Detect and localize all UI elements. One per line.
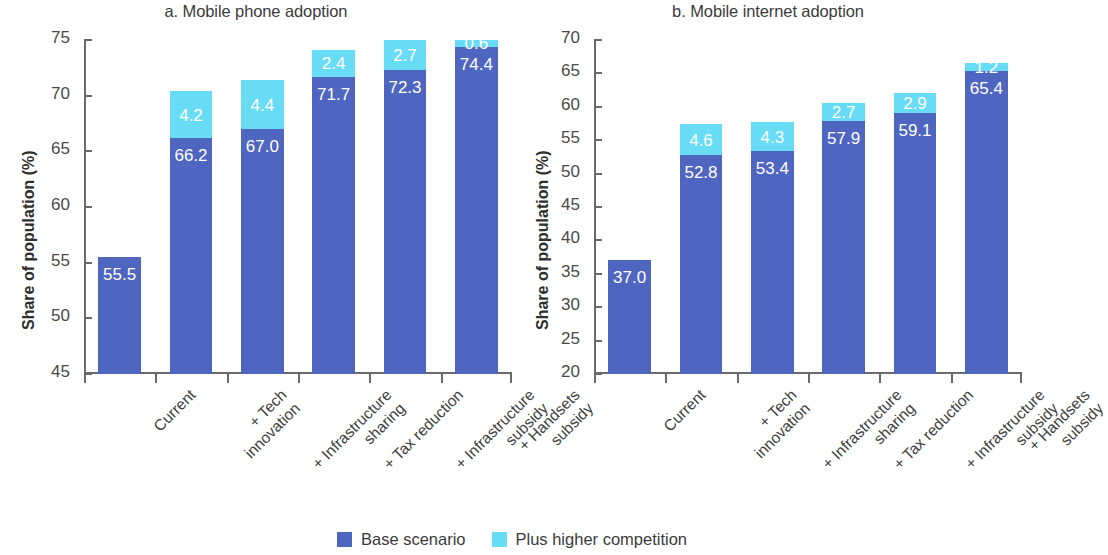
bar-value-label-base: 71.7 xyxy=(312,85,355,105)
bar-stack: 66.24.2 xyxy=(170,91,213,374)
y-axis-tick-mark xyxy=(594,340,602,342)
y-axis-tick-mark xyxy=(84,150,92,152)
bar-value-label-plus: 4.4 xyxy=(241,96,284,116)
bar-value-label-plus: 2.7 xyxy=(822,103,865,123)
bar-value-label-base: 66.2 xyxy=(170,146,213,166)
bar-value-label-plus: 0.6 xyxy=(455,34,498,54)
bar-value-label-base: 57.9 xyxy=(822,129,865,149)
legend-swatch-base xyxy=(337,532,352,547)
legend-item: Base scenario xyxy=(337,530,466,549)
bar-stack: 52.84.6 xyxy=(680,124,723,374)
y-axis-tick-label: 60 xyxy=(561,95,580,115)
y-axis-tick-mark xyxy=(84,39,92,41)
x-axis-category-label: + Infrastructuresubsidy xyxy=(961,386,1062,487)
y-axis-tick-label: 65 xyxy=(51,139,70,159)
bar-segment-base-scenario xyxy=(241,129,284,374)
x-axis-label-line1: + Handsets xyxy=(1025,386,1093,454)
bar-value-label-plus: 4.3 xyxy=(751,128,794,148)
legend-label: Plus higher competition xyxy=(516,530,688,549)
bar-value-label-plus: 4.2 xyxy=(170,106,213,126)
bar-value-label-base: 72.3 xyxy=(384,78,427,98)
x-axis-category-label: + Techinnovation xyxy=(227,386,304,463)
x-axis-category-label: + Techinnovation xyxy=(737,386,814,463)
bar-value-label-base: 74.4 xyxy=(455,55,498,75)
bar-value-label-base: 52.8 xyxy=(680,163,723,183)
y-axis-tick-mark xyxy=(594,273,602,275)
panel-mobile-internet-adoption: b. Mobile internet adoption Share of pop… xyxy=(512,0,1024,515)
bar-stack: 67.04.4 xyxy=(241,80,284,374)
x-axis-tick-mark xyxy=(84,374,86,383)
x-axis-label-line2: subsidy xyxy=(1038,399,1107,468)
bar-segment-base-scenario xyxy=(384,70,427,374)
x-axis-tick-mark xyxy=(155,374,157,383)
y-axis-tick-label: 40 xyxy=(561,228,580,248)
x-axis-category-label: Current xyxy=(150,386,200,436)
legend-swatch-plus xyxy=(492,532,507,547)
y-axis-tick-mark xyxy=(594,173,602,175)
bar-segment-base-scenario xyxy=(455,47,498,374)
x-axis-label-line2: innovation xyxy=(241,399,304,462)
bar-value-label-base: 59.1 xyxy=(894,121,937,141)
x-axis-label-line1: + Infrastructure xyxy=(309,386,395,472)
y-axis-tick-mark xyxy=(594,72,602,74)
y-axis-tick-label: 50 xyxy=(561,162,580,182)
bar-value-label-plus: 2.4 xyxy=(312,54,355,74)
x-axis-label-line1: + Tech xyxy=(245,386,289,430)
x-axis-category-label: + Tax reduction xyxy=(380,386,468,474)
y-axis-tick-mark xyxy=(594,106,602,108)
x-axis-tick-mark xyxy=(737,374,739,383)
panel-b-plot-area: 202530354045505560657037.052.84.653.44.3… xyxy=(594,40,1022,374)
y-axis-tick-mark xyxy=(594,206,602,208)
bar-stack: 53.44.3 xyxy=(751,122,794,374)
y-axis-tick-label: 45 xyxy=(561,195,580,215)
bar-stack: 57.92.7 xyxy=(822,103,865,374)
panel-a-plot-area: 4550556065707555.566.24.267.04.471.72.47… xyxy=(84,40,512,374)
x-axis-tick-mark xyxy=(1020,374,1022,383)
y-axis-tick-label: 65 xyxy=(561,61,580,81)
y-axis-tick-mark xyxy=(594,306,602,308)
bar-segment-base-scenario xyxy=(170,138,213,374)
bar-stack: 37.0 xyxy=(608,260,651,374)
y-axis-tick-mark xyxy=(84,206,92,208)
y-axis-tick-mark xyxy=(84,262,92,264)
bar-value-label-plus: 2.7 xyxy=(384,46,427,66)
bar-segment-base-scenario xyxy=(751,151,794,374)
bar-value-label-plus: 4.6 xyxy=(680,131,723,151)
y-axis-tick-label: 70 xyxy=(51,84,70,104)
x-axis-label-line1: + Tax reduction xyxy=(380,386,466,472)
bar-stack: 65.41.2 xyxy=(965,63,1008,374)
bar-segment-base-scenario xyxy=(894,113,937,374)
panel-a-y-axis-label: Share of population (%) xyxy=(20,150,38,330)
y-axis-tick-label: 55 xyxy=(561,128,580,148)
y-axis-tick-mark xyxy=(84,317,92,319)
y-axis-tick-label: 20 xyxy=(561,362,580,382)
bar-segment-base-scenario xyxy=(680,155,723,374)
y-axis-tick-label: 30 xyxy=(561,295,580,315)
x-axis-category-label: + Infrastructuresharing xyxy=(819,386,920,487)
x-axis-label-line1: + Tech xyxy=(755,386,799,430)
bar-value-label-base: 67.0 xyxy=(241,137,284,157)
bar-segment-base-scenario xyxy=(965,71,1008,374)
x-axis-label-line1: + Infrastructure xyxy=(961,386,1047,472)
bar-value-label-base: 53.4 xyxy=(751,159,794,179)
bar-segment-base-scenario xyxy=(822,121,865,374)
x-axis-label-line1: + Infrastructure xyxy=(819,386,905,472)
bar-stack: 55.5 xyxy=(98,257,141,374)
bar-stack: 71.72.4 xyxy=(312,50,355,374)
x-axis-tick-mark xyxy=(594,374,596,383)
x-axis-label-line1: Current xyxy=(660,386,709,435)
panel-b-y-axis-label: Share of population (%) xyxy=(534,150,552,330)
x-axis-tick-mark xyxy=(879,374,881,383)
bar-stack: 59.12.9 xyxy=(894,93,937,374)
legend-label: Base scenario xyxy=(361,530,466,549)
x-axis-tick-mark xyxy=(227,374,229,383)
x-axis-tick-mark xyxy=(441,374,443,383)
bar-value-label-base: 37.0 xyxy=(608,268,651,288)
bar-stack: 74.40.6 xyxy=(455,40,498,374)
y-axis-tick-label: 45 xyxy=(51,362,70,382)
x-axis-category-label: + Handsetssubsidy xyxy=(1025,386,1107,468)
chart-legend: Base scenarioPlus higher competition xyxy=(0,530,1024,549)
bar-value-label-base: 55.5 xyxy=(98,265,141,285)
panel-a-title: a. Mobile phone adoption xyxy=(0,2,512,21)
x-axis-tick-mark xyxy=(298,374,300,383)
